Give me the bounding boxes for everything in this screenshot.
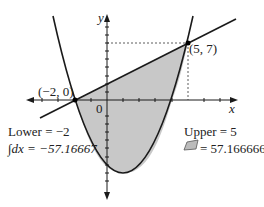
- origin-label: 0: [96, 102, 103, 115]
- upper-bound-text: Upper = 5: [184, 125, 237, 138]
- y-axis-label: y: [98, 11, 104, 24]
- area-readout: = 57.1666667: [200, 142, 264, 155]
- integral-dx-text: dx = −57.16667: [12, 141, 97, 156]
- graph-canvas: [0, 0, 264, 207]
- y-axis-top-arrow: [104, 14, 110, 22]
- point-label-right: (5, 7): [189, 42, 217, 55]
- integral-readout: ∫dx = −57.16667: [8, 142, 97, 155]
- shaded-region-icon: [184, 140, 198, 150]
- point-label-left: (−2, 0): [38, 85, 74, 98]
- x-axis-left-arrow: [26, 97, 34, 103]
- lower-bound-text: Lower = −2: [8, 125, 70, 138]
- x-axis-label: x: [229, 102, 235, 115]
- y-axis-bottom-arrow: [104, 192, 110, 200]
